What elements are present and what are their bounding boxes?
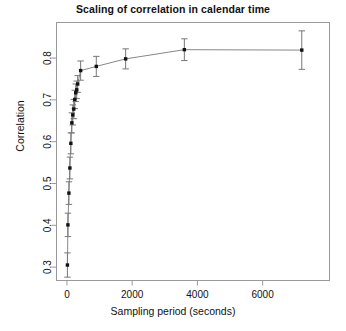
data-point-marker <box>76 82 79 85</box>
data-point-marker <box>183 48 186 51</box>
chart-plot-area: 0200040006000 0.30.40.50.60.70.8 <box>0 0 346 331</box>
data-point-marker <box>300 48 303 51</box>
x-axis-label: Sampling period (seconds) <box>0 305 346 317</box>
data-point-marker <box>69 142 72 145</box>
x-axis-ticks: 0200040006000 <box>64 281 274 300</box>
plot-frame-border <box>57 23 330 281</box>
data-point-marker <box>68 166 71 169</box>
y-axis-label: Correlation <box>14 66 26 186</box>
data-point-marker <box>74 91 77 94</box>
data-point-marker <box>66 263 69 266</box>
data-point-marker <box>75 88 78 91</box>
x-tick-label: 4000 <box>186 289 209 300</box>
data-point-marker <box>66 223 69 226</box>
data-point-marker <box>70 121 73 124</box>
data-point-marker <box>79 69 82 72</box>
y-tick-label: 0.3 <box>42 260 53 274</box>
y-tick-label: 0.6 <box>42 134 53 148</box>
x-tick-label: 6000 <box>252 289 275 300</box>
y-axis-ticks: 0.30.40.50.60.70.8 <box>42 51 57 274</box>
y-tick-label: 0.8 <box>42 51 53 65</box>
chart-figure: Scaling of correlation in calendar time … <box>0 0 346 331</box>
plot-frame <box>57 23 330 281</box>
x-tick-label: 0 <box>64 289 70 300</box>
data-point-marker <box>71 113 74 116</box>
data-point-marker <box>73 98 76 101</box>
y-tick-label: 0.5 <box>42 176 53 190</box>
y-tick-label: 0.4 <box>42 218 53 232</box>
data-point-marker <box>72 107 75 110</box>
y-tick-label: 0.7 <box>42 92 53 106</box>
data-point-marker <box>124 57 127 60</box>
data-point-marker <box>95 65 98 68</box>
data-point-marker <box>67 191 70 194</box>
x-tick-label: 2000 <box>121 289 144 300</box>
